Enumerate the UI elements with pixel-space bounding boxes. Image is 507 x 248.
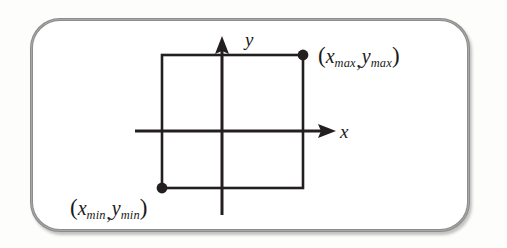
figure-page: x y (xmax,ymax) (xmin,ymin) — [0, 0, 507, 248]
max-label-y-var: y — [362, 45, 371, 67]
min-label-y-var: y — [112, 197, 121, 219]
bounding-box-rect — [162, 55, 303, 188]
x-axis-label: x — [340, 122, 348, 141]
max-corner-label: (xmax,ymax) — [318, 44, 400, 67]
max-label-separator: , — [356, 49, 362, 71]
min-label-close-paren: ) — [140, 195, 148, 220]
min-corner-label: (xmin,ymin) — [70, 196, 148, 219]
max-label-y-sub: max — [371, 56, 392, 70]
min-corner-dot — [157, 183, 168, 194]
min-label-x-var: x — [78, 197, 87, 219]
max-label-x-sub: max — [335, 56, 356, 70]
max-label-x-var: x — [326, 45, 335, 67]
min-label-x-sub: min — [87, 208, 106, 222]
min-label-open-paren: ( — [70, 195, 78, 220]
min-label-y-sub: min — [121, 208, 140, 222]
max-label-open-paren: ( — [318, 43, 326, 68]
y-axis-label: y — [245, 30, 253, 49]
min-label-separator: , — [106, 201, 112, 223]
max-corner-dot — [298, 50, 309, 61]
max-label-close-paren: ) — [392, 43, 400, 68]
